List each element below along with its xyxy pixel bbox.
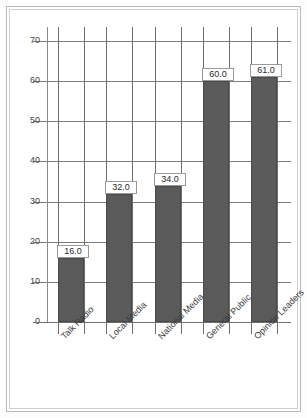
bar-value-label-3: 60.0 xyxy=(202,68,234,81)
bar-value-label-4: 61.0 xyxy=(250,64,282,77)
gridline-y-70 xyxy=(33,41,291,42)
bar-value-label-2: 34.0 xyxy=(154,173,186,186)
bar-3[interactable] xyxy=(203,81,229,322)
y-tick-label-20: 20 xyxy=(14,237,40,246)
y-tick-label-50: 50 xyxy=(14,116,40,125)
chart-page: 010203040506070 16.032.034.060.061.0 Tal… xyxy=(0,0,307,418)
y-tick-label-70: 70 xyxy=(14,36,40,45)
y-tick-label-40: 40 xyxy=(14,156,40,165)
y-tick-label-10: 10 xyxy=(14,277,40,286)
plot-area: 010203040506070 16.032.034.060.061.0 Tal… xyxy=(0,0,307,418)
bar-value-label-0: 16.0 xyxy=(57,245,89,258)
y-tick-label-30: 30 xyxy=(14,197,40,206)
bar-value-label-1: 32.0 xyxy=(105,181,137,194)
bar-2[interactable] xyxy=(155,186,181,322)
bar-1[interactable] xyxy=(106,194,132,322)
gridline-x-0-right xyxy=(84,27,85,334)
y-tick-label-60: 60 xyxy=(14,76,40,85)
y-axis-line xyxy=(47,27,48,323)
bar-4[interactable] xyxy=(251,77,277,322)
